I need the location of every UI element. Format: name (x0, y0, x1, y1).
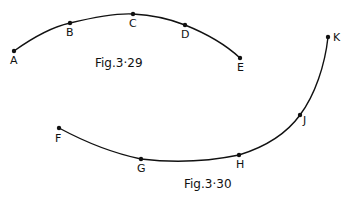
label-f: F (55, 133, 61, 144)
label-e: E (237, 62, 244, 73)
point-g (139, 157, 143, 161)
label-a: A (10, 55, 18, 66)
point-e (238, 56, 242, 60)
label-d: D (181, 29, 189, 40)
label-j: J (303, 115, 306, 126)
point-d (183, 23, 187, 27)
caption-fig-3-30: Fig.3·30 (184, 178, 232, 190)
label-k: K (333, 32, 340, 43)
point-f (57, 126, 61, 130)
point-k (326, 35, 330, 39)
point-a (12, 49, 16, 53)
label-b: B (66, 27, 74, 38)
point-h (237, 153, 241, 157)
point-b (68, 21, 72, 25)
point-c (131, 12, 135, 16)
point-j (298, 113, 302, 117)
diagram-canvas (0, 0, 359, 198)
curve-fig-3-29 (14, 14, 240, 58)
caption-fig-3-29: Fig.3·29 (95, 57, 143, 69)
label-c: C (129, 18, 137, 29)
label-g: G (137, 163, 146, 174)
label-h: H (236, 159, 244, 170)
